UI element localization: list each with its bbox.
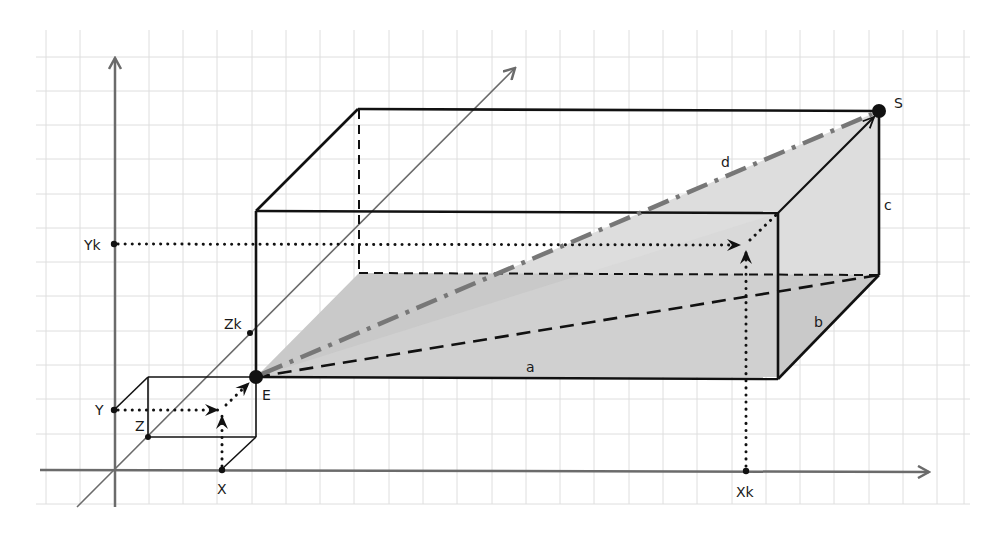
label-edge-d: d [721, 154, 730, 170]
label-edge-b: b [814, 314, 823, 330]
point-yk [111, 241, 117, 247]
x-axis [40, 470, 929, 472]
point-s [872, 104, 886, 118]
point-e [249, 370, 263, 384]
point-zk [247, 330, 253, 336]
label-edge-a: a [526, 359, 535, 375]
label-xk: Xk [736, 484, 755, 500]
label-zk: Zk [224, 316, 243, 332]
label-yk: Yk [83, 237, 102, 253]
cuboid-diagram: E S X Y Z Xk Yk Zk a b c d [0, 0, 1001, 534]
point-xk [743, 468, 749, 474]
label-e: E [262, 387, 271, 403]
label-z: Z [135, 418, 145, 434]
point-z [145, 434, 151, 440]
label-s: S [894, 95, 903, 111]
label-x: X [217, 481, 227, 497]
label-y: Y [94, 402, 104, 418]
point-x [219, 467, 225, 473]
label-edge-c: c [884, 197, 892, 213]
point-y [111, 407, 117, 413]
